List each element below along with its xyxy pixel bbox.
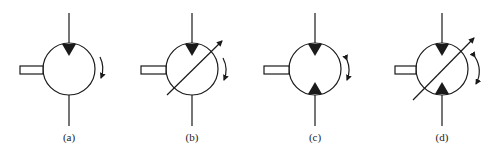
rotation-arrow-icon	[223, 58, 226, 80]
variable-motor-one-direction-symbol	[141, 13, 226, 126]
variable-motor-two-direction-symbol	[395, 13, 479, 126]
label-c: (c)	[295, 131, 335, 143]
fixed-motor-two-direction-symbol	[264, 13, 349, 126]
label-a: (a)	[49, 131, 89, 143]
bidirectional-rotation-arrow-icon	[347, 60, 349, 80]
label-d: (d)	[422, 131, 462, 143]
rotation-arrow-icon	[100, 57, 103, 78]
label-b: (b)	[172, 131, 212, 143]
bidirectional-rotation-arrow-icon	[475, 57, 479, 84]
fixed-motor-one-direction-symbol	[20, 13, 103, 126]
